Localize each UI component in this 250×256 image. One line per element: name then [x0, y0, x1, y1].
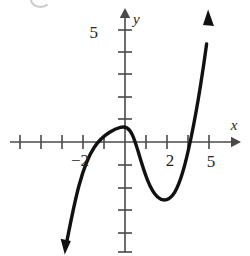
x-tick-label-2: 2	[166, 151, 175, 170]
curve-arrow-down-icon	[61, 239, 71, 255]
curve-arrow-up-icon	[203, 10, 214, 27]
y-axis-label: y	[131, 11, 140, 27]
y-tick-label-5: 5	[90, 23, 99, 42]
x-tick-label-5: 5	[207, 152, 216, 171]
x-tick-label-neg2: −2	[71, 151, 89, 170]
x-axis-arrow-icon	[231, 137, 241, 147]
function-curve-group	[61, 10, 214, 255]
x-axis-label: x	[230, 117, 238, 133]
function-curve	[66, 44, 207, 245]
coordinate-plane-svg: 5 y −2 2 5 x	[0, 0, 250, 256]
graph-figure: 5 y −2 2 5 x	[0, 0, 250, 256]
y-axis-arrow-icon	[120, 8, 130, 18]
